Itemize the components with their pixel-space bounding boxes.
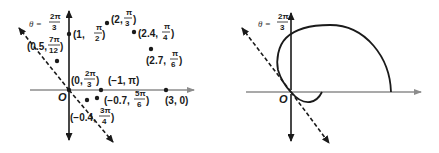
svg-text:5π: 5π (135, 89, 146, 98)
svg-text:12: 12 (49, 46, 58, 55)
svg-text:(−0.7,: (−0.7, (104, 95, 130, 106)
svg-text:4: 4 (163, 33, 168, 42)
svg-text:2π: 2π (278, 12, 289, 21)
theta-line-dashed-lower (291, 92, 329, 143)
svg-text:): ) (171, 28, 174, 39)
svg-text:(2,: (2, (111, 14, 123, 25)
theta-line-dashed (19, 28, 69, 90)
svg-text:3: 3 (280, 23, 285, 32)
right-panel: θ = 2π 3 O (242, 12, 421, 143)
svg-text:): ) (146, 95, 149, 106)
svg-text:4: 4 (102, 117, 107, 126)
svg-text:π: π (172, 49, 178, 58)
svg-text:3: 3 (87, 80, 92, 89)
theta-label: θ = 2π 3 (29, 12, 61, 32)
point-0-5-7pi-12: (0.5, 7π 12 ) (27, 35, 63, 63)
origin-point (67, 88, 71, 92)
polar-curve (277, 25, 391, 92)
theta-label-prefix: θ = (29, 19, 42, 29)
svg-text:(−1, π): (−1, π) (108, 75, 139, 86)
theta-label: θ = 2π 3 (258, 12, 289, 32)
svg-text:): ) (111, 112, 114, 123)
svg-text:(2.4,: (2.4, (138, 28, 158, 39)
theta-label-den: 3 (52, 23, 57, 32)
point-2-7-pi-6: (2.7, π 6 ) (146, 47, 182, 69)
svg-text:(−0.4,: (−0.4, (70, 112, 96, 123)
svg-text:6: 6 (171, 60, 176, 69)
svg-text:(0.5,: (0.5, (27, 41, 47, 52)
svg-text:(3, 0): (3, 0) (165, 95, 188, 106)
point-2-4-pi-4: (2.4, π 4 ) (132, 22, 175, 42)
svg-text:): ) (133, 14, 136, 25)
left-panel: θ = 2π 3 O (1, π 2 ) (2, π 3 ) (19, 8, 194, 142)
svg-text:θ =: θ = (258, 19, 271, 29)
svg-text:3: 3 (125, 19, 130, 28)
svg-text:): ) (60, 41, 63, 52)
point-1-pi-2: (1, π 2 ) (67, 23, 106, 43)
svg-text:π: π (164, 22, 170, 31)
svg-text:(0,: (0, (71, 75, 83, 86)
svg-text:6: 6 (137, 100, 142, 109)
svg-text:): ) (102, 29, 105, 40)
svg-text:(1,: (1, (73, 29, 85, 40)
polar-figure: θ = 2π 3 O (1, π 2 ) (2, π 3 ) (0, 0, 439, 153)
svg-text:2: 2 (95, 34, 100, 43)
origin-label: O (58, 91, 67, 103)
origin-label: O (279, 93, 288, 105)
point-0-2pi-3: (0, 2π 3 ) (71, 69, 99, 89)
svg-text:7π: 7π (49, 35, 60, 44)
svg-text:3π: 3π (100, 106, 111, 115)
svg-text:2π: 2π (85, 69, 96, 78)
svg-text:π: π (126, 8, 132, 17)
point-2-pi-3: (2, π 3 ) (105, 8, 137, 28)
svg-text:(2.7,: (2.7, (146, 55, 166, 66)
theta-label-num: 2π (50, 12, 61, 21)
polar-curve-inner-loop (291, 92, 322, 102)
svg-text:): ) (179, 55, 182, 66)
svg-text:): ) (96, 75, 99, 86)
